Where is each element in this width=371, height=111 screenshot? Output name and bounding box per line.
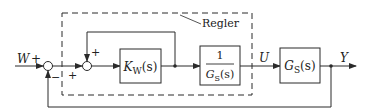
regler-label: Regler (202, 17, 240, 30)
control-signal-u-label: U (259, 51, 270, 65)
summing-junction-2 (83, 62, 92, 71)
sum1-minus-sign: − (51, 71, 60, 84)
control-block-diagram: Regler W + − + + KW(s) 1 GS(s) U GS(s) Y (0, 0, 371, 111)
gs-block-label: GS(s) (284, 59, 315, 75)
output-y-label: Y (340, 51, 349, 65)
sum2-plus-left: + (68, 69, 77, 82)
summing-junction-1 (44, 62, 53, 71)
inverse-gs-numerator: 1 (217, 49, 224, 62)
input-w-label: W (17, 52, 31, 66)
sum2-plus-top: + (91, 46, 100, 59)
inverse-gs-denominator: GS(s) (206, 68, 235, 83)
input-plus-sign: + (31, 52, 41, 66)
regler-leader-line (180, 15, 201, 24)
